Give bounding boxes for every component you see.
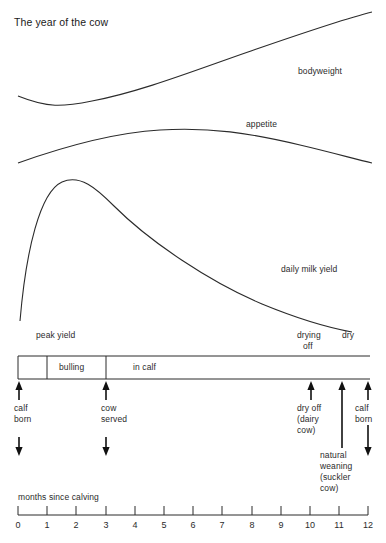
- drying-off-label-line1: drying: [297, 330, 321, 341]
- event-label-calf-born-start-line2: born: [14, 414, 31, 425]
- axis-tick-0: 0: [10, 520, 26, 531]
- event-label-natural-weaning-line2: weaning: [320, 461, 352, 472]
- event-label-calf-born-end-line2: born: [355, 414, 372, 425]
- axis-tick-1: 1: [39, 520, 55, 531]
- dry-label: dry: [342, 330, 354, 341]
- drying-off-label-line2: off: [303, 341, 313, 352]
- event-label-natural-weaning-line3: (suckler: [320, 472, 351, 483]
- axis-tick-11: 11: [331, 520, 347, 531]
- daily-milk-yield-label: daily milk yield: [281, 264, 337, 275]
- appetite-label: appetite: [246, 119, 277, 130]
- event-label-cow-served-line1: cow: [101, 403, 116, 414]
- axis-tick-6: 6: [185, 520, 201, 531]
- months-axis: [18, 506, 368, 515]
- axis-tick-2: 2: [68, 520, 84, 531]
- event-label-calf-born-end-line1: calf: [355, 403, 369, 414]
- event-label-dry-off-line3: cow): [297, 425, 315, 436]
- axis-tick-10: 10: [302, 520, 318, 531]
- daily-milk-yield-curve: [20, 180, 352, 332]
- axis-tick-4: 4: [127, 520, 143, 531]
- axis-tick-5: 5: [156, 520, 172, 531]
- event-label-dry-off-line2: (dairy: [297, 414, 319, 425]
- event-arrow-natural-weaning: [338, 381, 345, 448]
- repro-segment-label-in-calf: in calf: [133, 362, 156, 373]
- figure-page: The year of the cow: [0, 0, 386, 543]
- axis-tick-7: 7: [214, 520, 230, 531]
- event-label-calf-born-start-line1: calf: [14, 403, 28, 414]
- axis-tick-3: 3: [98, 520, 114, 531]
- axis-tick-9: 9: [273, 520, 289, 531]
- event-arrow-dry-off-dairy-cow: [307, 381, 314, 400]
- bodyweight-curve: [18, 12, 372, 105]
- bodyweight-label: bodyweight: [298, 66, 342, 77]
- event-label-cow-served-line2: served: [101, 414, 127, 425]
- event-label-natural-weaning-line1: natural: [320, 450, 347, 461]
- peak-yield-label: peak yield: [36, 330, 75, 341]
- axis-tick-8: 8: [244, 520, 260, 531]
- event-label-dry-off-line1: dry off: [297, 403, 321, 414]
- repro-segment-label-bulling: bulling: [59, 362, 84, 373]
- axis-tick-12: 12: [360, 520, 376, 531]
- appetite-curve: [18, 129, 372, 163]
- axis-caption: months since calving: [18, 492, 99, 503]
- event-label-natural-weaning-line4: cow): [320, 483, 338, 494]
